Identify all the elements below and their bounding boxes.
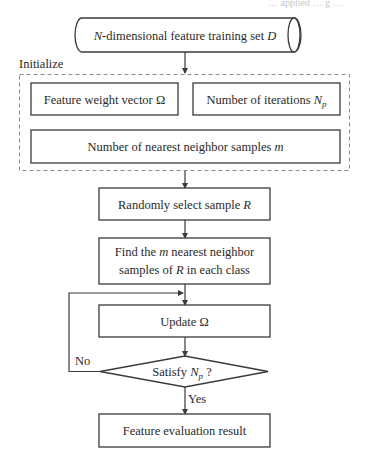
neighbors-count-node: Number of nearest neighbor samples m [31,130,340,163]
result-label: Feature evaluation result [123,424,247,438]
decision-node: Satisfy Np ? [100,356,268,387]
find-neighbors-line2: samples of R in each class [119,263,250,277]
cylinder-cap [288,18,300,52]
random-select-label: Randomly select sample R [118,198,251,212]
iterations-node: Number of iterations Np [193,83,340,115]
iterations-label: Number of iterations Np [206,93,327,109]
edge-label-no: No [75,354,90,368]
neighbors-count-label: Number of nearest neighbor samples m [87,140,283,154]
update-label: Update Ω [160,315,209,329]
update-node: Update Ω [99,305,270,337]
edge-label-yes: Yes [188,392,206,406]
init-group-label: Initialize [19,57,64,71]
find-neighbors-line1: Find the m nearest neighbor [115,245,255,259]
weight-vector-node: Feature weight vector Ω [31,83,178,115]
random-select-node: Randomly select sample R [99,188,270,220]
input-dataset-label: N-dimensional feature training set D [93,29,277,43]
decision-label: Satisfy Np ? [152,365,212,381]
find-neighbors-node: Find the m nearest neighbor samples of R… [99,238,270,284]
result-node: Feature evaluation result [99,414,270,447]
header-fragment: … applied … g … [268,0,342,8]
flowchart: … applied … g … N-dimensional feature tr… [0,0,365,459]
weight-vector-label: Feature weight vector Ω [44,93,165,107]
input-dataset-node: N-dimensional feature training set D [75,18,301,52]
